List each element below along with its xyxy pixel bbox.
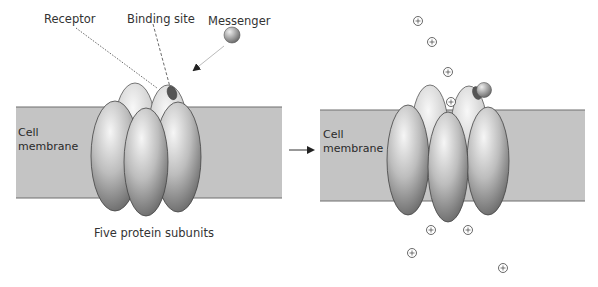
binding-site-label: Binding site <box>127 13 195 26</box>
bound-messenger <box>477 83 492 98</box>
protein-subunit-front-center <box>124 108 168 216</box>
ion-icon <box>444 68 453 77</box>
ion-icon <box>428 38 437 47</box>
ion-icon <box>447 98 456 107</box>
cell-membrane-label-right: Cell membrane <box>323 128 383 156</box>
binding-site-leader-line <box>153 24 170 87</box>
protein-subunit-front-right <box>467 107 509 215</box>
protein-subunit-front-center <box>428 112 468 222</box>
messenger-label: Messenger <box>208 15 270 28</box>
messenger-arrow <box>194 46 224 70</box>
receptor-leader-line <box>76 28 157 88</box>
messenger-molecule <box>224 27 240 43</box>
protein-subunit-front-left <box>387 105 429 215</box>
receptor-label: Receptor <box>44 13 96 26</box>
ion-icon <box>408 249 417 258</box>
ion-icon <box>414 17 423 26</box>
ion-icon <box>464 226 473 235</box>
diagram-canvas <box>0 0 598 287</box>
cell-membrane-label-left: Cell membrane <box>18 126 78 154</box>
ion-icon <box>499 264 508 273</box>
caption-five-protein-subunits: Five protein subunits <box>94 227 214 240</box>
ion-icon <box>427 226 436 235</box>
left-panel <box>16 24 282 216</box>
